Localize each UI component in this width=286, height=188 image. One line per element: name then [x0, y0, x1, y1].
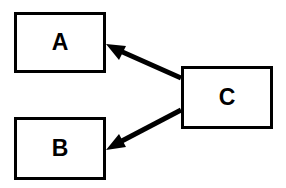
edge-c-to-a-line: [118, 50, 181, 78]
edge-c-to-a: [106, 44, 181, 78]
edge-c-to-b-line: [118, 110, 181, 143]
node-label-c: C: [219, 86, 236, 109]
node-box-a: A: [14, 12, 106, 73]
diagram-canvas: A B C: [0, 0, 286, 188]
edge-c-to-a-arrowhead: [106, 44, 126, 60]
node-label-a: A: [52, 31, 69, 54]
node-box-b: B: [14, 117, 106, 180]
edge-c-to-b-arrowhead: [106, 134, 126, 150]
node-label-b: B: [52, 137, 69, 160]
edge-c-to-b: [106, 110, 181, 150]
node-box-c: C: [181, 66, 273, 129]
